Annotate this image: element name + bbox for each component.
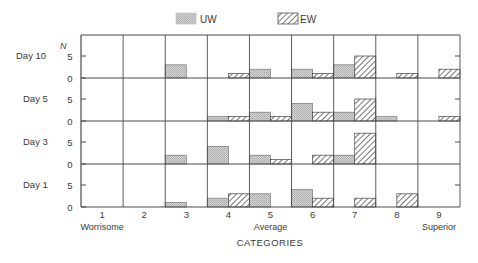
bar-ew-day-5-cat-4 [228,117,249,121]
bar-uw-day-10-cat-6 [292,69,313,78]
bar-ew-day-5-cat-6 [313,112,334,121]
category-annotation: Superior [422,222,456,232]
y-axis-label: N [60,41,67,51]
panel-label: Day 10 [16,50,46,61]
bar-ew-day-3-cat-7 [355,133,376,164]
y-tick-label: 5 [67,94,72,105]
bar-uw-day-3-cat-5 [249,155,270,164]
x-tick-labels: 123456789 [99,209,441,220]
x-tick-label: 3 [184,209,189,220]
x-axis-label: CATEGORIES [237,237,304,248]
y-tick-label: 0 [67,73,72,84]
panel-label: Day 5 [23,93,48,104]
category-annotations: WorrisomeAverageSuperior [80,222,456,232]
bar-uw-day-3-cat-4 [207,146,228,164]
bar-uw-day-10-cat-5 [249,69,270,78]
panel-label: Day 1 [23,179,48,190]
bar-ew-day-1-cat-4 [228,194,249,207]
bar-uw-day-1-cat-4 [207,198,228,207]
bar-uw-day-1-cat-5 [249,194,270,207]
y-tick-label: 0 [67,159,72,170]
bar-ew-day-10-cat-7 [355,56,376,78]
bar-ew-day-5-cat-7 [355,99,376,121]
x-tick-label: 2 [142,209,147,220]
bar-uw-day-5-cat-5 [249,112,270,121]
bar-uw-day-5-cat-6 [292,103,313,121]
bar-uw-day-1-cat-3 [165,203,186,207]
bar-uw-day-3-cat-3 [165,155,186,164]
x-tick-label: 5 [268,209,273,220]
y-tick-label: 5 [67,51,72,62]
bar-ew-day-5-cat-5 [271,117,292,121]
bar-ew-day-10-cat-6 [313,74,334,78]
x-tick-label: 6 [310,209,315,220]
bar-ew-day-1-cat-8 [397,194,418,207]
bar-uw-day-5-cat-4 [207,117,228,121]
bar-uw-day-10-cat-3 [165,65,186,78]
x-tick-label: 8 [394,209,399,220]
bar-ew-day-1-cat-6 [313,198,334,207]
bar-ew-day-10-cat-4 [228,74,249,78]
bar-uw-day-10-cat-7 [334,65,355,78]
legend-label-ew: EW [300,14,317,25]
category-annotation: Average [254,222,287,232]
x-tick-label: 1 [99,209,104,220]
legend-label-uw: UW [200,14,217,25]
legend-swatch-uw [176,13,196,24]
x-tick-label: 7 [352,209,357,220]
bar-ew-day-5-cat-9 [439,117,460,121]
bar-uw-day-5-cat-7 [334,112,355,121]
x-tick-label: 4 [226,209,231,220]
bar-uw-day-1-cat-6 [292,189,313,207]
bar-uw-day-5-cat-8 [376,117,397,121]
bar-ew-day-1-cat-7 [355,198,376,207]
legend-swatch-ew [278,13,298,24]
bar-ew-day-10-cat-8 [397,74,418,78]
panel-label: Day 3 [23,136,48,147]
panel-labels: Day 10 Day 5 Day 3 Day 1 [16,50,48,190]
legend: UW EW [176,13,317,25]
panel-grid [81,35,460,207]
category-annotation: Worrisome [80,222,123,232]
bar-uw-day-3-cat-7 [334,155,355,164]
bar-ew-day-3-cat-5 [271,160,292,164]
bar-ew-day-10-cat-9 [439,69,460,78]
y-tick-label: 0 [67,116,72,127]
x-tick-label: 9 [436,209,441,220]
bars [165,56,460,207]
bar-ew-day-3-cat-6 [313,155,334,164]
y-tick-label: 5 [67,137,72,148]
y-tick-label: 5 [67,180,72,191]
small-multiples-bar-chart: UW EW N Day 10 Day 5 Day 3 Day 1 0505050… [0,0,478,263]
y-tick-label: 0 [67,202,72,213]
